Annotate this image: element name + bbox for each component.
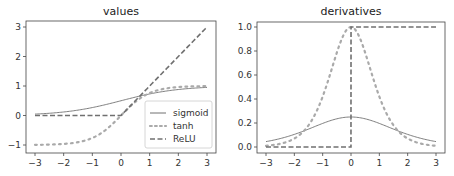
values-subplot: values −3−2−10123−10123 sigmoid tanh ReL…: [8, 5, 216, 168]
y-tick-label: 0.0: [238, 142, 253, 152]
x-tick-label: −2: [57, 158, 70, 168]
y-tick-label: 0.4: [238, 94, 253, 104]
x-tick-label: 3: [204, 158, 210, 168]
y-tick-label: −1: [8, 140, 21, 150]
x-tick-label: 0: [348, 158, 354, 168]
x-tick-label: −3: [259, 158, 272, 168]
derivatives-title: derivatives: [321, 5, 382, 18]
x-tick-label: 2: [405, 158, 411, 168]
legend-tanh-label: tanh: [173, 121, 193, 131]
relu-line: [266, 27, 436, 147]
chart-canvas: values −3−2−10123−10123 sigmoid tanh ReL…: [0, 0, 454, 176]
x-tick-label: −3: [28, 158, 41, 168]
y-tick-label: 0.6: [238, 70, 253, 80]
x-tick-label: 2: [175, 158, 181, 168]
y-tick-label: 2: [15, 52, 21, 62]
y-tick-label: 1: [15, 81, 21, 91]
x-tick-label: −1: [316, 158, 329, 168]
derivatives-subplot: derivatives −3−2−101230.00.20.40.60.81.0: [238, 5, 445, 168]
x-tick-label: 1: [376, 158, 382, 168]
x-tick-label: −1: [86, 158, 99, 168]
x-tick-label: −2: [288, 158, 301, 168]
derivatives-lines: [266, 27, 436, 147]
y-tick-label: 0.2: [238, 118, 252, 128]
y-tick-label: 3: [15, 22, 21, 32]
x-tick-label: 1: [147, 158, 153, 168]
legend-sigmoid-label: sigmoid: [173, 108, 208, 118]
legend: sigmoid tanh ReLU: [145, 101, 212, 148]
values-title: values: [103, 5, 139, 18]
x-tick-label: 0: [118, 158, 124, 168]
y-tick-label: 0: [15, 111, 21, 121]
y-tick-label: 1.0: [238, 22, 253, 32]
y-tick-label: 0.8: [238, 46, 253, 56]
legend-relu-label: ReLU: [173, 134, 196, 144]
x-tick-label: 3: [433, 158, 439, 168]
